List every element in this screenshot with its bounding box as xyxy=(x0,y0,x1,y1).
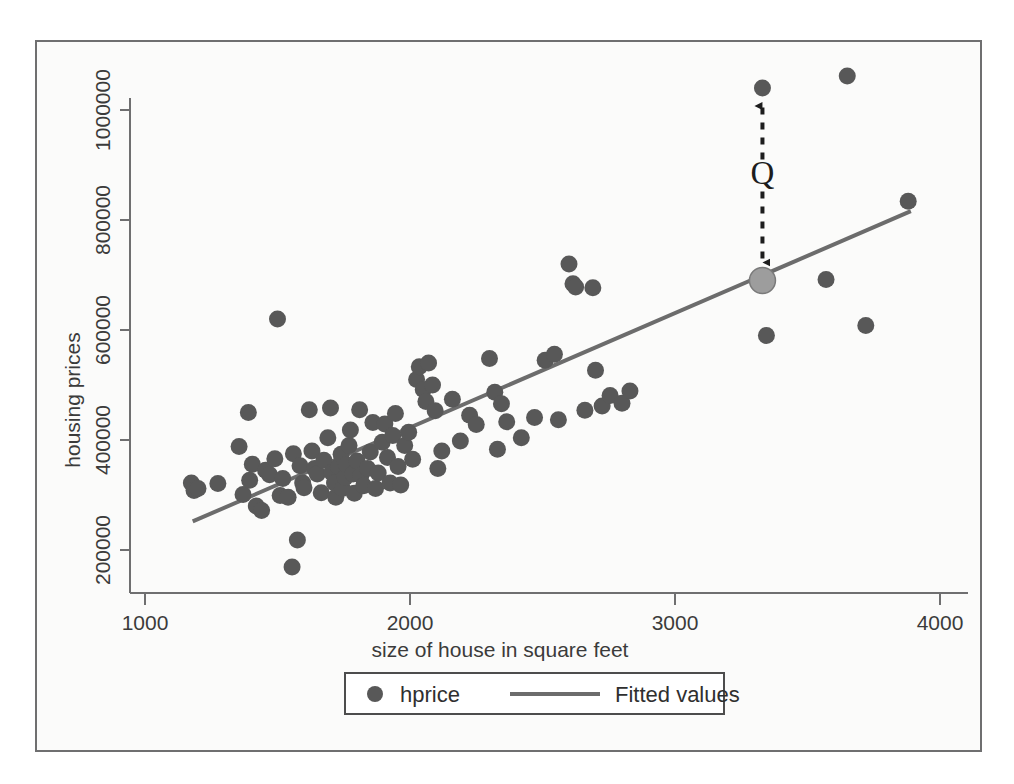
scatter-point xyxy=(392,477,409,494)
scatter-point xyxy=(481,350,498,367)
scatter-point xyxy=(584,279,601,296)
scatter-point xyxy=(274,470,291,487)
scatter-point xyxy=(284,559,301,576)
scatter-point xyxy=(444,391,461,408)
scatter-point xyxy=(621,383,638,400)
scatter-point xyxy=(839,67,856,84)
scatter-point xyxy=(269,311,286,328)
scatter-point xyxy=(758,327,775,344)
scatter-point xyxy=(900,193,917,210)
x-tick-label-2000: 2000 xyxy=(387,611,434,634)
fitted-point-marker xyxy=(749,268,775,294)
scatter-point xyxy=(404,451,421,468)
scatter-point xyxy=(341,437,358,454)
scatter-points-group xyxy=(183,67,917,575)
scatter-point xyxy=(498,413,515,430)
scatter-point xyxy=(526,409,543,426)
scatter-point xyxy=(367,480,384,497)
scatter-point xyxy=(319,429,336,446)
scatter-point xyxy=(241,472,258,489)
scatter-point xyxy=(561,256,578,273)
scatter-point xyxy=(567,279,584,296)
scatter-point xyxy=(427,402,444,419)
x-axis: 1000 2000 3000 4000 size of house in squ… xyxy=(122,593,968,661)
y-axis-ticks xyxy=(120,110,130,550)
x-tick-label-4000: 4000 xyxy=(917,611,964,634)
y-tick-label-1000000: 1000000 xyxy=(91,69,114,151)
scatter-point xyxy=(289,532,306,549)
scatter-point xyxy=(546,346,563,363)
scatter-point xyxy=(292,457,309,474)
x-axis-title: size of house in square feet xyxy=(372,638,629,661)
scatter-point xyxy=(390,458,407,475)
x-axis-ticks xyxy=(145,593,940,605)
scatter-point xyxy=(280,489,297,506)
scatter-point xyxy=(754,80,771,97)
chart-legend: hprice Fitted values xyxy=(345,673,740,714)
scatter-point xyxy=(433,443,450,460)
legend-marker-hprice-icon xyxy=(367,686,383,702)
scatter-point xyxy=(322,400,339,417)
y-axis-title: housing prices xyxy=(61,332,84,467)
legend-label-fitted-values: Fitted values xyxy=(615,682,740,707)
scatter-point xyxy=(429,460,446,477)
x-tick-label-1000: 1000 xyxy=(122,611,169,634)
scatter-point xyxy=(576,402,593,419)
scatter-point xyxy=(387,405,404,422)
y-axis: 1000000 800000 600000 400000 200000 hous… xyxy=(61,69,130,593)
scatter-point xyxy=(266,450,283,467)
scatter-point xyxy=(493,395,510,412)
scatter-point xyxy=(587,362,604,379)
scatter-point xyxy=(190,480,207,497)
scatter-point xyxy=(818,271,835,288)
scatter-plot: 1000000 800000 600000 400000 200000 hous… xyxy=(0,0,1014,784)
scatter-point xyxy=(452,433,469,450)
legend-label-hprice: hprice xyxy=(400,682,460,707)
y-tick-label-400000: 400000 xyxy=(91,405,114,475)
y-tick-label-800000: 800000 xyxy=(91,185,114,255)
scatter-point xyxy=(420,355,437,372)
scatter-point xyxy=(342,422,359,439)
annotation-label-q: Q xyxy=(751,155,775,191)
y-tick-label-600000: 600000 xyxy=(91,295,114,365)
x-tick-label-3000: 3000 xyxy=(652,611,699,634)
scatter-point xyxy=(513,429,530,446)
scatter-point xyxy=(240,404,257,421)
scatter-point xyxy=(424,377,441,394)
chart-figure: 1000000 800000 600000 400000 200000 hous… xyxy=(0,0,1014,784)
scatter-point xyxy=(253,502,270,519)
residual-annotation: Q xyxy=(749,106,775,294)
scatter-point xyxy=(489,441,506,458)
y-tick-label-200000: 200000 xyxy=(91,515,114,585)
scatter-point xyxy=(296,479,313,496)
scatter-point xyxy=(209,475,226,492)
scatter-point xyxy=(550,411,567,428)
scatter-point xyxy=(468,416,485,433)
scatter-point xyxy=(351,401,368,418)
scatter-point xyxy=(301,401,318,418)
scatter-point xyxy=(857,317,874,334)
scatter-point xyxy=(400,424,417,441)
scatter-point xyxy=(231,438,248,455)
